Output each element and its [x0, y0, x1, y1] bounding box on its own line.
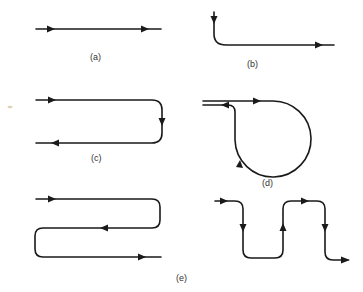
arrow-right-icon	[341, 257, 350, 264]
arrow-down-icon	[159, 118, 166, 126]
panel-b: (b)	[211, 12, 335, 69]
path-b	[214, 12, 334, 45]
flow-path-diagram: (a) (b) (c) (d) (e)	[0, 0, 363, 292]
arrow-up-icon	[280, 223, 287, 231]
arrow-left-icon	[221, 102, 229, 109]
panel-d: (d)	[203, 98, 311, 189]
arrow-left-icon	[100, 225, 108, 232]
path-e-left	[35, 199, 161, 257]
arrow-right-icon	[138, 254, 146, 261]
panel-label-c: (c)	[91, 153, 102, 163]
panel-label-d: (d)	[262, 178, 273, 188]
arrow-down-icon	[322, 224, 329, 232]
arrow-right-icon	[48, 97, 56, 104]
path-d	[203, 101, 311, 177]
arrow-right-icon	[253, 98, 261, 105]
artifact-speck	[8, 106, 13, 108]
panel-e-right	[215, 198, 350, 264]
panel-label-a: (a)	[90, 52, 101, 62]
arrow-left-icon	[51, 140, 59, 147]
arrow-right-icon	[47, 26, 55, 33]
arrow-right-icon	[301, 198, 309, 205]
arrow-down-icon	[240, 224, 247, 232]
panel-e-left	[35, 196, 161, 261]
path-c	[36, 100, 162, 143]
arrow-down-icon	[211, 16, 218, 24]
panel-a: (a)	[36, 26, 161, 63]
arrow-right-icon	[141, 26, 149, 33]
panel-label-b: (b)	[247, 59, 258, 69]
panel-label-e: (e)	[176, 273, 187, 283]
arrow-right-icon	[315, 42, 323, 49]
arrow-right-icon	[48, 196, 56, 203]
panel-c: (c)	[36, 97, 166, 164]
arrow-right-icon	[220, 198, 228, 205]
